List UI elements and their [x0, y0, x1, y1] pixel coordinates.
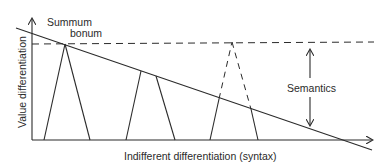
triangle-summum-bonum [44, 44, 90, 140]
semantics-label: Semantics [287, 83, 336, 94]
x-axis-label: Indifferent differentiation (syntax) [124, 151, 277, 162]
dashed-level-line [32, 42, 374, 44]
summum-label: Summum [47, 17, 92, 28]
triangle-right [210, 42, 258, 140]
triangle-middle [126, 71, 175, 140]
y-axis-label: Value differentiation [17, 36, 28, 128]
bonum-label: bonum [70, 28, 102, 39]
